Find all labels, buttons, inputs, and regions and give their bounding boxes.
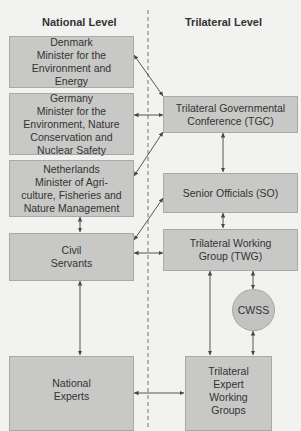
box-civil-servants-text: Civil Servants — [51, 244, 92, 270]
box-germany-text: Germany Minister for the Environment, Na… — [23, 92, 119, 157]
box-twg-text: Trilateral Working Group (TWG) — [190, 237, 272, 263]
box-tgc: Trilateral Governmental Conference (TGC) — [163, 96, 298, 133]
box-national-experts: National Experts — [9, 356, 134, 431]
box-so-text: Senior Officials (SO) — [183, 187, 279, 200]
box-trilateral-expert-working-groups: Trilateral Expert Working Groups — [185, 356, 272, 431]
box-twg: Trilateral Working Group (TWG) — [163, 229, 298, 271]
box-civil-servants: Civil Servants — [9, 233, 134, 281]
box-netherlands-minister: Netherlands Minister of Agri- culture, F… — [9, 160, 134, 217]
box-national-experts-text: National Experts — [52, 377, 91, 403]
box-netherlands-text: Netherlands Minister of Agri- culture, F… — [21, 163, 121, 215]
circle-cwss: CWSS — [232, 289, 275, 331]
box-germany-minister: Germany Minister for the Environment, Na… — [9, 93, 134, 155]
box-senior-officials: Senior Officials (SO) — [163, 173, 298, 213]
cwss-label: CWSS — [238, 304, 270, 316]
box-tgc-text: Trilateral Governmental Conference (TGC) — [176, 102, 285, 128]
box-tewg-text: Trilateral Expert Working Groups — [208, 365, 248, 417]
box-denmark-text: Denmark Minister for the Environment and… — [32, 36, 111, 88]
box-denmark-minister: Denmark Minister for the Environment and… — [9, 36, 134, 88]
